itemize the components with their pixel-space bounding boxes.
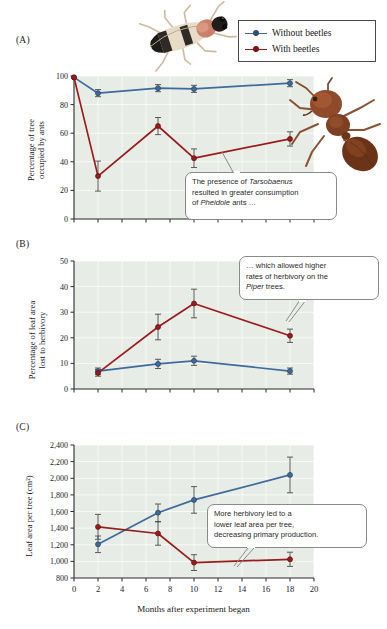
svg-text:0: 0	[72, 584, 76, 594]
data-point	[192, 497, 197, 502]
figure-root: Without beetles With beetles (A) Percent…	[0, 0, 387, 629]
svg-text:2,400: 2,400	[50, 441, 68, 450]
data-point	[288, 472, 293, 477]
callout-a-line3: of Pheidole ants …	[192, 198, 330, 209]
svg-text:20: 20	[60, 334, 68, 343]
callout-c-line3: decreasing primary production.	[214, 530, 360, 541]
data-point	[156, 361, 161, 366]
svg-text:6: 6	[144, 584, 148, 594]
svg-text:2,200: 2,200	[50, 458, 68, 467]
svg-text:2,000: 2,000	[50, 474, 68, 483]
svg-text:800: 800	[56, 574, 68, 583]
data-point	[72, 75, 77, 80]
svg-text:16: 16	[262, 584, 271, 594]
svg-text:8: 8	[168, 584, 172, 594]
svg-text:10: 10	[190, 584, 199, 594]
data-point	[96, 524, 101, 529]
svg-text:18: 18	[286, 584, 295, 594]
legend: Without beetles With beetles	[238, 20, 376, 62]
svg-text:60: 60	[60, 129, 68, 138]
beetle-photo	[133, 2, 239, 66]
data-point	[156, 325, 161, 330]
callout-a-line2: resulted in greater consumption	[192, 188, 330, 199]
data-point	[156, 510, 161, 515]
data-point	[96, 542, 101, 547]
svg-text:1,200: 1,200	[50, 541, 68, 550]
data-point	[156, 531, 161, 536]
svg-text:0: 0	[64, 215, 68, 224]
callout-b-line2: rates of herbivory on the	[246, 272, 372, 283]
callout-c-line1: More herbivory led to a	[214, 509, 360, 520]
legend-label-without-beetles: Without beetles	[272, 28, 332, 38]
legend-swatch-with-beetles	[245, 44, 267, 54]
data-point	[288, 369, 293, 374]
callout-panel-c: More herbivory led to a lower leaf area …	[207, 504, 367, 548]
svg-text:4: 4	[120, 584, 125, 594]
svg-text:12: 12	[214, 584, 223, 594]
data-point	[288, 333, 293, 338]
data-point	[96, 174, 101, 179]
x-axis-title: Months after experiment began	[0, 604, 387, 614]
svg-text:20: 20	[310, 584, 319, 594]
svg-text:50: 50	[60, 257, 68, 266]
svg-text:100: 100	[56, 72, 68, 81]
callout-c-line2: lower leaf area per tree,	[214, 520, 360, 531]
svg-text:10: 10	[60, 359, 68, 368]
data-point	[192, 560, 197, 565]
svg-text:40: 40	[60, 283, 68, 292]
data-point	[192, 358, 197, 363]
svg-text:2: 2	[96, 584, 100, 594]
legend-label-with-beetles: With beetles	[272, 44, 319, 54]
svg-text:30: 30	[60, 308, 68, 317]
callout-panel-a: The presence of Tarsobaenus resulted in …	[185, 172, 337, 220]
legend-item-with-beetles: With beetles	[245, 41, 369, 57]
svg-text:40: 40	[60, 158, 68, 167]
svg-text:1,600: 1,600	[50, 508, 68, 517]
svg-text:80: 80	[60, 101, 68, 110]
data-point	[96, 370, 101, 375]
svg-text:0: 0	[64, 385, 68, 394]
data-point	[192, 156, 197, 161]
callout-a-line1: The presence of Tarsobaenus	[192, 177, 330, 188]
callout-b-line3: Piper trees.	[246, 282, 372, 293]
data-point	[96, 91, 101, 96]
svg-text:1,400: 1,400	[50, 524, 68, 533]
legend-item-without-beetles: Without beetles	[245, 25, 369, 41]
data-point	[288, 557, 293, 562]
callout-panel-b: … which allowed higher rates of herbivor…	[239, 256, 379, 300]
svg-text:1,000: 1,000	[50, 557, 68, 566]
data-point	[156, 124, 161, 129]
legend-swatch-without-beetles	[245, 28, 267, 38]
svg-text:20: 20	[60, 186, 68, 195]
ant-photo	[288, 78, 386, 180]
data-point	[156, 86, 161, 91]
svg-text:14: 14	[238, 584, 247, 594]
callout-b-line1: … which allowed higher	[246, 261, 372, 272]
svg-text:1,800: 1,800	[50, 491, 68, 500]
data-point	[192, 86, 197, 91]
data-point	[192, 301, 197, 306]
